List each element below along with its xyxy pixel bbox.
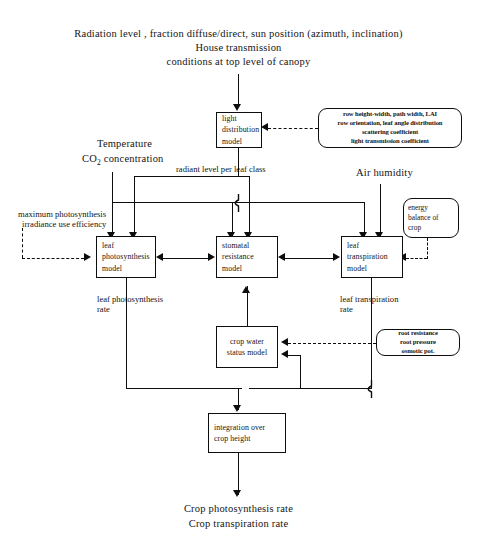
arrowhead-stomatal-to-photosynthesis [156, 253, 163, 261]
bubble-root-parameters[interactable]: root resistance root pressure osmotic po… [376, 329, 460, 356]
box-light-distribution-model[interactable]: light distribution model [216, 112, 262, 148]
label-leaf-transpiration-rate-line-1: leaf transpiration [340, 294, 398, 304]
connector-maxphoto-stem [22, 228, 23, 258]
arrowhead-return-to-cropwater [281, 350, 288, 358]
label-leaf-photosynthesis-rate-line-2: rate [97, 304, 110, 314]
connector-temp-stem [112, 172, 113, 203]
arrowhead-stomatal-to-transpiration [333, 253, 340, 261]
connector-temp-to-photosynthesis [112, 202, 113, 236]
leaf-photosynthesis-line-3: model [102, 263, 150, 274]
arrowhead-cropwater-to-stomatal [242, 286, 250, 293]
label-max-photosynthesis-line-2: irradiance use efficiency [22, 219, 106, 229]
diagram-canvas: Radiation level , fraction diffuse/direc… [0, 0, 477, 550]
leaf-transpiration-line-1: leaf [347, 240, 397, 251]
energy-balance-line-2: balance of [408, 213, 454, 223]
label-leaf-photosynthesis-rate-line-1: leaf photosynthesis [97, 294, 163, 304]
label-air-humidity: Air humidity [356, 167, 413, 180]
connector-radiant-to-stomatal [249, 176, 250, 236]
arrowhead-photosynthesis-to-stomatal [208, 253, 215, 261]
connector-photosynthesis-stomatal [160, 258, 212, 259]
connector-lightparams-to-light [268, 128, 318, 129]
output-line-1: Crop photosynthesis rate [0, 503, 477, 516]
arrowhead-integration-to-output [233, 490, 241, 497]
stomatal-resistance-line-1: stomatal [222, 240, 272, 251]
label-temperature: Temperature [97, 138, 152, 151]
arrowhead-maxphoto-to-photosynthesis [84, 253, 91, 261]
label-co2-concentration: CO2 concentration [82, 153, 164, 167]
label-radiant-level: radiant level per leaf class [176, 164, 266, 174]
co2-prefix: CO [82, 153, 97, 164]
bubble-light-parameters[interactable]: row height-width, path width, LAI row or… [318, 108, 462, 148]
light-param-line-1: row height-width, path width, LAI [343, 110, 437, 119]
arrowhead-transpiration-to-stomatal [278, 253, 285, 261]
root-param-line-2: root pressure [400, 338, 436, 347]
connector-photosynthesis-rate-down [126, 278, 127, 389]
integration-line-2: crop height [214, 433, 280, 444]
label-leaf-transpiration-rate-line-2: rate [340, 304, 353, 314]
connector-stomatal-transpiration [282, 258, 337, 259]
connector-return-to-cropwater-stem [300, 355, 301, 388]
connector-radiant-bus-right [238, 176, 249, 177]
crop-water-status-line-2: status model [222, 347, 272, 358]
connector-header-to-light [238, 74, 239, 106]
header-line-2: House transmission [0, 42, 477, 55]
leaf-transpiration-line-2: transpiration [347, 251, 397, 262]
energy-balance-line-1: energy [408, 203, 454, 213]
output-line-2: Crop transpiration rate [0, 518, 477, 531]
bubble-energy-balance[interactable]: energy balance of crop [403, 198, 459, 238]
box-crop-water-status-model[interactable]: crop water status model [216, 326, 278, 368]
connector-radiant-to-photosynthesis [134, 176, 135, 236]
connector-energy-to-transpiration [406, 258, 427, 259]
box-leaf-transpiration-model[interactable]: leaf transpiration model [341, 236, 403, 278]
leaf-transpiration-line-3: model [347, 263, 397, 274]
stomatal-resistance-line-3: model [222, 263, 272, 274]
light-distribution-line-1: light [222, 113, 256, 124]
connector-rootparams-to-cropwater [288, 343, 376, 344]
wire-crossover-hop-top [231, 194, 247, 212]
wire-crossover-hop-bottom [364, 380, 380, 398]
light-param-line-3: scattering coefficient [362, 128, 418, 137]
arrowhead-header-to-light [233, 104, 241, 111]
light-param-line-2: row orientation, leaf angle distribution [338, 119, 443, 128]
connector-photosynthesis-rate-right [126, 388, 242, 389]
connector-maxphoto-to-photosynthesis [22, 258, 84, 259]
root-param-line-1: root resistance [398, 329, 437, 338]
box-integration-over-crop-height[interactable]: integration over crop height [208, 413, 286, 453]
crop-water-status-line-1: crop water [222, 336, 272, 347]
connector-humidity-to-transpiration [380, 184, 381, 236]
connector-light-stem [238, 148, 239, 176]
header-line-3: conditions at top level of canopy [0, 56, 477, 69]
connector-temp-to-transpiration [364, 202, 365, 236]
energy-balance-line-3: crop [408, 223, 454, 233]
arrowhead-lightparams-to-light [261, 123, 268, 131]
connector-radiant-bus-left [134, 176, 238, 177]
arrowhead-to-integration [233, 405, 241, 412]
arrowhead-rootparams-to-cropwater [281, 338, 288, 346]
label-max-photosynthesis-line-1: maximum photosynthesis [18, 209, 106, 219]
leaf-photosynthesis-line-2: photosynthesis [102, 251, 150, 262]
integration-line-1: integration over [214, 422, 280, 433]
connector-return-to-cropwater [288, 355, 300, 356]
co2-suffix: concentration [101, 153, 164, 164]
connector-transpiration-rate-left [249, 388, 371, 389]
box-stomatal-resistance-model[interactable]: stomatal resistance model [216, 236, 278, 278]
box-leaf-photosynthesis-model[interactable]: leaf photosynthesis model [96, 236, 156, 278]
connector-energy-stem [427, 238, 428, 259]
light-param-line-4: light transmission coefficient [351, 137, 429, 146]
leaf-photosynthesis-line-1: leaf [102, 240, 150, 251]
light-distribution-line-3: model [222, 136, 256, 147]
header-line-1: Radiation level , fraction diffuse/direc… [0, 28, 477, 41]
root-param-line-3: osmotic pot. [402, 347, 435, 356]
light-distribution-line-2: distribution [222, 124, 256, 135]
stomatal-resistance-line-2: resistance [222, 251, 272, 262]
connector-integration-to-output [238, 453, 239, 495]
connector-transpiration-rate-down [371, 278, 372, 389]
